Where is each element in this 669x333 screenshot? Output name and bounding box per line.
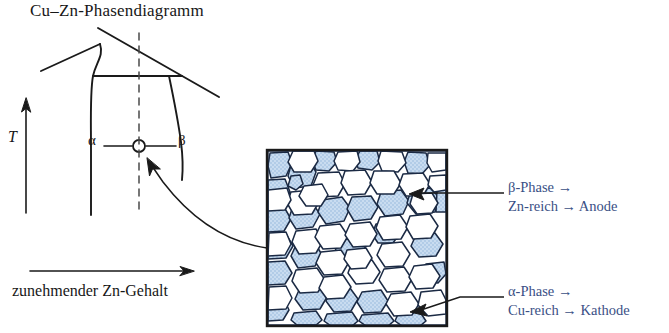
callout-beta-line2: Zn-reich → Anode [508,197,618,216]
callout-alpha-phase: α-Phase → Cu-reich → Kathode [508,282,630,320]
callout-beta-line1: β-Phase → [508,178,618,197]
callout-alpha-line1: α-Phase → [508,282,630,301]
microstructure-panel [268,151,446,326]
figure-root: Cu–Zn-Phasendiagramm [0,0,669,333]
callout-beta-phase: β-Phase → Zn-reich → Anode [508,178,618,216]
callout-alpha-line2: Cu-reich → Kathode [508,301,630,320]
